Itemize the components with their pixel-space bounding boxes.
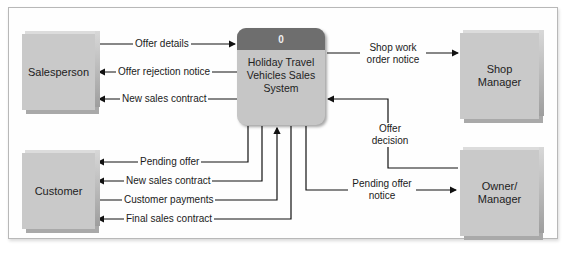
entity-shop-manager: Shop Manager	[460, 33, 539, 119]
process-name: Holiday Travel Vehicles Sales System	[237, 50, 325, 95]
entity-customer: Customer	[22, 153, 95, 229]
process-number: 0	[237, 28, 325, 50]
flow-label-shop-work-order-notice: Shop work order notice	[360, 42, 426, 66]
flow-label-offer-decision: Offer decision	[364, 123, 416, 147]
flow-label-customer-payments: Customer payments	[122, 194, 215, 206]
entity-salesperson: Salesperson	[22, 34, 95, 110]
process-box: 0 Holiday Travel Vehicles Sales System	[237, 28, 325, 125]
flow-label-pending-offer: Pending offer	[138, 156, 201, 168]
flow-label-new-sales-contract-salesperson: New sales contract	[120, 93, 208, 105]
flow-label-pending-offer-notice: Pending offer notice	[348, 178, 416, 202]
flow-label-offer-details: Offer details	[133, 38, 191, 50]
flow-label-final-sales-contract: Final sales contract	[124, 213, 214, 225]
entity-owner-manager: Owner/ Manager	[460, 150, 539, 236]
flow-label-offer-rejection-notice: Offer rejection notice	[116, 66, 212, 78]
flow-label-new-sales-contract-customer: New sales contract	[124, 175, 212, 187]
